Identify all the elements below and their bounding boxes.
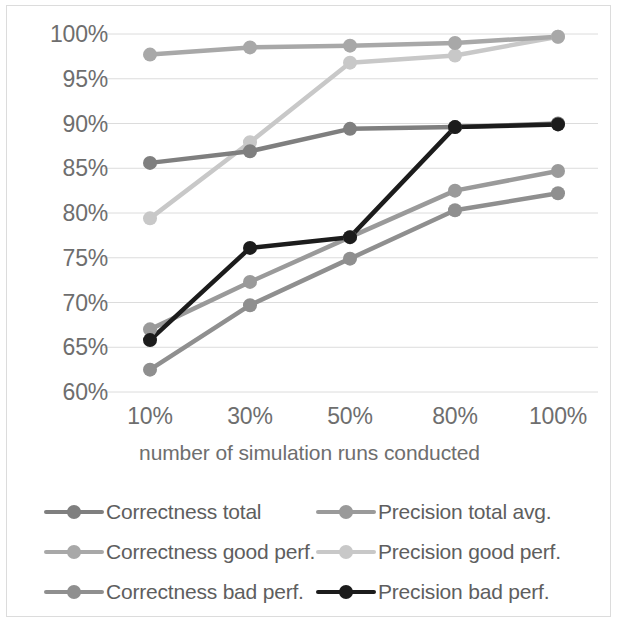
y-axis-tick-label: 100%	[18, 21, 108, 48]
legend-marker-icon	[67, 505, 81, 519]
x-axis-tick-label: 80%	[432, 403, 477, 430]
legend-swatch-icon	[316, 583, 376, 601]
legend-swatch-icon	[316, 503, 376, 521]
data-point-marker	[343, 230, 357, 244]
legend-item[interactable]: Correctness bad perf.	[44, 575, 316, 609]
data-point-marker	[448, 36, 462, 50]
y-axis-tick-label: 85%	[18, 155, 108, 182]
legend-label: Correctness bad perf.	[106, 580, 304, 604]
legend-item[interactable]: Precision total avg.	[316, 495, 584, 529]
data-point-marker	[243, 144, 257, 158]
data-point-marker	[143, 333, 157, 347]
legend-label: Correctness good perf.	[106, 540, 315, 564]
legend-item[interactable]: Precision good perf.	[316, 535, 584, 569]
data-point-marker	[343, 122, 357, 136]
data-point-marker	[448, 184, 462, 198]
data-point-marker	[243, 275, 257, 289]
x-axis-tick-label: 100%	[529, 403, 587, 430]
data-point-marker	[551, 30, 565, 44]
series-lines-group	[150, 37, 558, 370]
data-point-marker	[448, 48, 462, 62]
legend-label: Precision bad perf.	[378, 580, 549, 604]
legend-item[interactable]: Precision bad perf.	[316, 575, 584, 609]
x-axis-tick-label: 50%	[327, 403, 372, 430]
data-point-marker	[448, 203, 462, 217]
data-point-marker	[551, 117, 565, 131]
data-point-marker	[448, 120, 462, 134]
data-point-marker	[143, 156, 157, 170]
chart-page: 60%65%70%75%80%85%90%95%100% 10%30%50%80…	[0, 0, 619, 625]
legend-swatch-icon	[44, 583, 104, 601]
data-point-marker	[343, 39, 357, 53]
y-axis-tick-label: 65%	[18, 334, 108, 361]
legend-label: Precision total avg.	[378, 500, 551, 524]
data-point-marker	[551, 164, 565, 178]
legend-marker-icon	[339, 505, 353, 519]
legend-item[interactable]: Correctness good perf.	[44, 535, 316, 569]
data-point-marker	[551, 186, 565, 200]
data-point-marker	[243, 298, 257, 312]
legend-swatch-icon	[316, 543, 376, 561]
data-point-marker	[243, 40, 257, 54]
legend-swatch-icon	[44, 543, 104, 561]
x-axis-title: number of simulation runs conducted	[0, 441, 619, 465]
series-line	[150, 171, 558, 329]
data-point-marker	[343, 252, 357, 266]
chart-legend: Correctness totalPrecision total avg.Cor…	[44, 492, 584, 612]
y-axis-tick-label: 80%	[18, 200, 108, 227]
legend-label: Correctness total	[106, 500, 261, 524]
y-axis-tick-label: 60%	[18, 379, 108, 406]
data-point-marker	[243, 241, 257, 255]
legend-swatch-icon	[44, 503, 104, 521]
x-axis-tick-label: 30%	[227, 403, 272, 430]
y-axis-tick-label: 95%	[18, 65, 108, 92]
legend-marker-icon	[67, 545, 81, 559]
y-axis-tick-label: 75%	[18, 244, 108, 271]
data-point-marker	[343, 56, 357, 70]
legend-marker-icon	[67, 585, 81, 599]
legend-label: Precision good perf.	[378, 540, 561, 564]
data-point-marker	[143, 363, 157, 377]
y-axis-tick-labels: 60%65%70%75%80%85%90%95%100%	[8, 0, 108, 470]
data-point-marker	[143, 48, 157, 62]
data-point-marker	[143, 211, 157, 225]
legend-marker-icon	[339, 545, 353, 559]
x-axis-tick-label: 10%	[127, 403, 172, 430]
chart-plot-area: 60%65%70%75%80%85%90%95%100% 10%30%50%80…	[0, 0, 619, 470]
legend-marker-icon	[339, 585, 353, 599]
x-axis-tick-labels: 10%30%50%80%100%	[0, 403, 619, 437]
y-axis-tick-label: 70%	[18, 289, 108, 316]
gridlines-group	[104, 34, 598, 392]
y-axis-tick-label: 90%	[18, 110, 108, 137]
legend-item[interactable]: Correctness total	[44, 495, 316, 529]
